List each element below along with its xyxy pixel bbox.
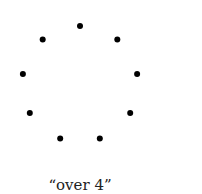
dot — [127, 110, 133, 116]
dot — [97, 136, 103, 142]
dot — [77, 23, 83, 29]
dot — [134, 71, 140, 77]
dot — [27, 110, 33, 116]
dot — [20, 71, 26, 77]
dot — [114, 37, 120, 43]
dot-circle-diagram — [0, 0, 202, 194]
caption: “over 4” — [0, 176, 160, 194]
dot — [57, 136, 63, 142]
dot — [40, 37, 46, 43]
